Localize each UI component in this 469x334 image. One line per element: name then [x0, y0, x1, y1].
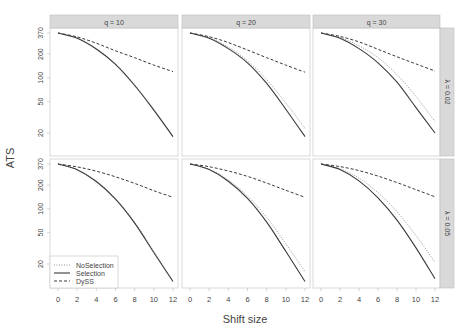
y-tick-label: 20	[37, 129, 44, 137]
y-axis-ticks: 37020010050203702001005020	[37, 27, 50, 268]
panel-1-3	[313, 28, 440, 156]
x-tick-label: 2	[75, 295, 79, 304]
panels-group	[50, 28, 440, 288]
x-tick-label: 12	[431, 295, 439, 304]
panel-2-2	[182, 159, 310, 288]
x-tick-label: 0	[319, 295, 323, 304]
x-tick-label: 12	[169, 295, 177, 304]
x-tick-label: 8	[265, 295, 269, 304]
x-tick-label: 10	[412, 295, 420, 304]
col-strip-label: q = 20	[236, 19, 256, 27]
x-tick-label: 6	[113, 295, 117, 304]
legend-label-selection: Selection	[76, 270, 105, 277]
x-tick-label: 4	[94, 295, 98, 304]
y-axis-label: ATS	[4, 148, 16, 169]
legend-label-noselection: NoSelection	[76, 262, 114, 269]
x-tick-label: 2	[338, 295, 342, 304]
x-tick-label: 2	[207, 295, 211, 304]
x-tick-label: 10	[282, 295, 290, 304]
legend: NoSelection Selection DySS	[50, 256, 118, 288]
y-tick-label: 50	[37, 98, 44, 106]
y-tick-label: 50	[37, 229, 44, 237]
faceted-line-chart: q = 10q = 20q = 30 λ = 0.02λ = 0.05 3702…	[0, 0, 469, 334]
panel-1-1	[50, 28, 178, 156]
x-tick-label: 8	[133, 295, 137, 304]
y-tick-label: 370	[37, 158, 44, 170]
x-axis-label: Shift size	[223, 313, 268, 325]
x-tick-label: 6	[376, 295, 380, 304]
panel-1-2	[182, 28, 310, 156]
col-strip-label: q = 10	[104, 19, 124, 27]
x-tick-label: 4	[357, 295, 361, 304]
row-strip-label: λ = 0.02	[444, 79, 451, 104]
y-tick-label: 370	[37, 27, 44, 39]
x-axis-ticks: 024681012024681012024681012	[56, 288, 439, 304]
x-tick-label: 6	[245, 295, 249, 304]
row-strip-label: λ = 0.05	[444, 211, 451, 236]
legend-label-dyss: DySS	[76, 278, 94, 286]
y-tick-label: 200	[37, 48, 44, 60]
y-tick-label: 200	[37, 179, 44, 191]
y-tick-label: 20	[37, 260, 44, 268]
row-facet-strips: λ = 0.02λ = 0.05	[440, 28, 454, 288]
y-tick-label: 100	[37, 203, 44, 215]
x-tick-label: 0	[188, 295, 192, 304]
x-tick-label: 4	[226, 295, 230, 304]
x-tick-label: 10	[150, 295, 158, 304]
x-tick-label: 8	[395, 295, 399, 304]
y-tick-label: 100	[37, 72, 44, 84]
x-tick-label: 12	[301, 295, 309, 304]
x-tick-label: 0	[56, 295, 60, 304]
col-strip-label: q = 30	[367, 19, 387, 27]
panel-2-3	[313, 159, 440, 288]
column-facet-strips: q = 10q = 20q = 30	[50, 15, 440, 28]
